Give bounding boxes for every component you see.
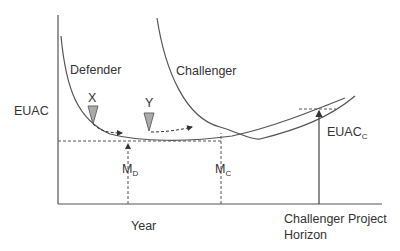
defender-label: Defender xyxy=(70,63,121,77)
horizon-label-1: Challenger Project xyxy=(284,212,387,226)
defender-curve xyxy=(61,36,345,140)
horizon-label-2: Horizon xyxy=(284,228,327,242)
y-arrow xyxy=(151,127,192,132)
x-label: X xyxy=(88,91,96,105)
challenger-curve xyxy=(157,18,355,139)
x-arrow xyxy=(93,124,122,133)
challenger-label: Challenger xyxy=(176,64,236,78)
marker-y xyxy=(144,113,154,131)
y-axis-label: EUAC xyxy=(14,104,49,118)
x-axis-label: Year xyxy=(131,219,156,233)
mc-label: MC xyxy=(215,162,231,178)
euacc-label: EUACC xyxy=(327,125,368,141)
md-label: MD xyxy=(122,162,138,178)
marker-x xyxy=(88,106,98,124)
diagram: EUAC Year Defender Challenger X Y MD MC … xyxy=(0,0,400,251)
y-label: Y xyxy=(145,96,153,110)
